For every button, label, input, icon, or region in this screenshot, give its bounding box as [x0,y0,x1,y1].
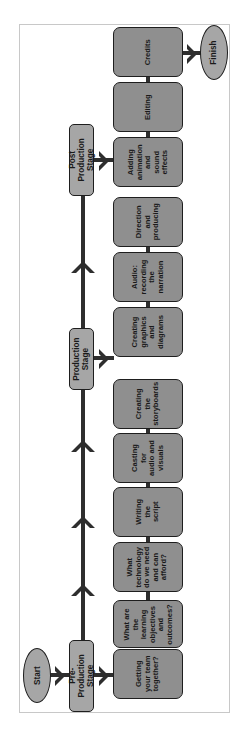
step-label: Direction and producing [135,203,161,240]
step-label: Creating graphics and diagrams [131,315,165,349]
stage-label: Post Production Stage [68,138,96,181]
arrow-right-icon [97,150,111,172]
step-label: What are the learning objectives and out… [122,604,173,645]
step-graphics-diagrams: Creating graphics and diagrams [113,307,183,357]
finish-terminal: Finish [200,25,228,80]
arrow-right-icon [97,665,111,687]
start-label: Start [32,666,41,685]
arrow-right-icon [185,43,199,65]
stage-label: Pre-Production Stage [68,654,96,697]
arrow-right-icon [97,348,111,370]
step-writing-script: Writing the script [113,487,183,537]
step-label: Getting your team together? [135,656,161,692]
start-terminal: Start [23,648,51,703]
step-storyboards: Creating the storyboards [113,379,183,429]
step-learning-objectives: What are the learning objectives and out… [113,600,183,648]
step-label: Editing [144,94,153,120]
step-what-technology: What technology do we need and can affor… [113,542,183,592]
step-label: Casting for audio and visuals [131,440,165,476]
arrow-up-icon [70,580,96,598]
step-label: Adding animation and sound effects [127,144,170,180]
arrow-up-icon [70,512,96,530]
stage-production: Production Stage [69,328,94,390]
step-direction-producing: Direction and producing [113,197,183,247]
step-credits: Credits [113,27,183,77]
arrow-up-icon [70,436,96,454]
stage-spine-line [81,390,85,670]
step-label: Audio: recording the narration [131,259,165,294]
finish-label: Finish [209,40,218,64]
step-label: Creating the storyboards [135,382,161,426]
step-label: Credits [144,39,153,65]
stage-pre-production: Pre-Production Stage [69,640,94,712]
step-getting-team-together: Getting your team together? [113,649,183,699]
step-editing: Editing [113,82,183,132]
step-audio-narration: Audio: recording the narration [113,252,183,302]
step-label: Writing the script [135,499,161,525]
stage-label: Production Stage [72,337,90,380]
arrow-right-icon [53,665,67,687]
arrow-up-icon [70,257,96,275]
step-animation-sound: Adding animation and sound effects [113,137,183,187]
step-label: What technology do we need and can affor… [127,546,170,587]
stage-post-production: Post Production Stage [69,124,94,196]
step-casting: Casting for audio and visuals [113,433,183,483]
